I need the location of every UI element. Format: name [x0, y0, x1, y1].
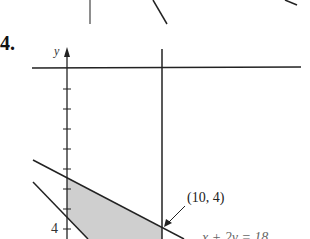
- graph-canvas: [0, 0, 310, 239]
- y-tick-label: 4: [51, 221, 58, 237]
- feasible-region: [67, 178, 162, 239]
- y-axis-arrow-icon: [64, 47, 70, 57]
- y-axis-label: y: [54, 44, 59, 59]
- intersection-point-label: (10, 4): [187, 190, 224, 206]
- horizontal-boundary-line: [32, 67, 301, 68]
- problem-number: 4.: [0, 32, 15, 55]
- prev-figure-diagonal-line-right: [285, 0, 297, 5]
- prev-figure-diagonal-line: [153, 0, 167, 24]
- point-annotation-arrow: [167, 206, 185, 224]
- constraint-equation-label: x + 2y = 18: [202, 230, 268, 239]
